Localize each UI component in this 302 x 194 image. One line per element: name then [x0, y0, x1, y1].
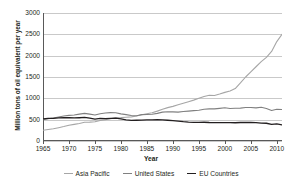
legend-item[interactable]: United States: [123, 170, 175, 177]
x-tick-mark: [277, 141, 278, 144]
y-tick-label: 0: [14, 137, 40, 144]
legend-label: Asia Pacific: [76, 170, 110, 177]
y-tick-label: 2000: [14, 52, 40, 59]
x-axis-title: Year: [0, 155, 302, 162]
x-tick-label: 1985: [135, 145, 159, 152]
x-tick-label: 2005: [239, 145, 263, 152]
series-line: [43, 34, 282, 130]
x-tick-mark: [173, 141, 174, 144]
x-tick-label: 1965: [31, 145, 55, 152]
series-lines: [43, 13, 282, 141]
plot-area: [43, 13, 282, 141]
legend-line-icon: [64, 173, 73, 174]
legend-label: United States: [135, 170, 175, 177]
x-tick-mark: [147, 141, 148, 144]
legend-item[interactable]: EU Countries: [187, 170, 238, 177]
legend-label: EU Countries: [199, 170, 238, 177]
x-tick-mark: [121, 141, 122, 144]
x-tick-mark: [199, 141, 200, 144]
x-tick-label: 1970: [57, 145, 81, 152]
chart-legend: Asia PacificUnited StatesEU Countries: [0, 170, 302, 177]
gridline: [43, 141, 282, 142]
x-tick-mark: [43, 141, 44, 144]
y-tick-label: 1500: [14, 73, 40, 80]
x-tick-label: 1980: [109, 145, 133, 152]
x-tick-mark: [95, 141, 96, 144]
energy-consumption-line-chart: Million tons of oil equivalent per year …: [0, 0, 302, 194]
x-tick-mark: [251, 141, 252, 144]
y-tick-label: 1000: [14, 94, 40, 101]
x-tick-label: 1995: [187, 145, 211, 152]
y-tick-label: 3000: [14, 9, 40, 16]
legend-item[interactable]: Asia Pacific: [64, 170, 110, 177]
y-tick-label: 2500: [14, 30, 40, 37]
x-tick-label: 1990: [161, 145, 185, 152]
legend-line-icon: [123, 173, 132, 174]
x-tick-label: 2010: [265, 145, 289, 152]
x-tick-mark: [225, 141, 226, 144]
legend-line-icon: [187, 173, 196, 174]
y-tick-label: 500: [14, 116, 40, 123]
x-tick-mark: [69, 141, 70, 144]
x-tick-label: 2000: [213, 145, 237, 152]
x-tick-label: 1975: [83, 145, 107, 152]
